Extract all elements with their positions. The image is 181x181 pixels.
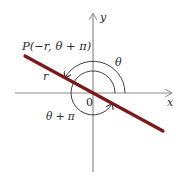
point-label: P(−r, θ + π) bbox=[21, 39, 91, 53]
y-axis-label: y bbox=[99, 11, 107, 24]
x-axis-label: x bbox=[167, 96, 174, 109]
r-label: r bbox=[43, 70, 49, 83]
theta-plus-pi-label: θ + π bbox=[46, 110, 76, 122]
origin-label: 0 bbox=[86, 96, 93, 109]
polar-diagram: P(−r, θ + π) r θ θ + π 0 x y bbox=[0, 0, 181, 181]
theta-label: θ bbox=[115, 56, 122, 69]
